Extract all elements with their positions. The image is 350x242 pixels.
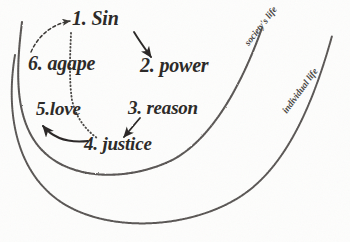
node-label-justice: 4. justice (84, 134, 152, 153)
connector-justice-to-love (43, 126, 88, 141)
node-label-agape: 6. agape (28, 53, 95, 73)
node-label-sin: 1. Sin (72, 8, 119, 28)
node-label-power: 2. power (140, 55, 208, 75)
node-label-reason: 3. reason (128, 98, 198, 117)
connector-agape-to-sin (31, 21, 70, 52)
connector-sin-to-justice-dotted (70, 33, 97, 138)
diagram-strokes (0, 0, 350, 242)
diagram-canvas: 1. Sin 2. power 3. reason 4. justice 5.l… (0, 0, 350, 242)
node-label-love: 5.love (36, 99, 81, 118)
